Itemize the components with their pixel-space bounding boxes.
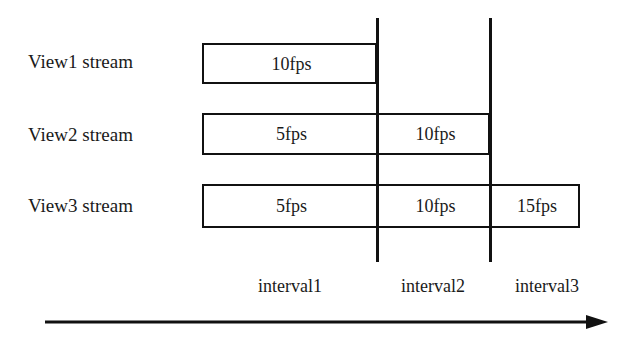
segment-view2-interval2: 10fps	[379, 115, 492, 153]
stream-bar-view2: 5fps 10fps	[202, 113, 490, 155]
row-label-view3: View3 stream	[28, 196, 133, 215]
segment-value: 10fps	[413, 125, 459, 143]
stream-bar-view3: 5fps 10fps 15fps	[202, 184, 580, 228]
row-label-view1: View1 stream	[28, 52, 133, 71]
stream-bar-view1: 10fps	[202, 43, 377, 84]
segment-view3-interval1: 5fps	[204, 186, 379, 226]
segment-value: 10fps	[413, 197, 459, 215]
segment-view3-interval2: 10fps	[379, 186, 492, 226]
interval-caption-3: interval3	[487, 277, 607, 295]
row-label-view2: View2 stream	[28, 125, 133, 144]
interval-caption-2: interval2	[373, 277, 493, 295]
segment-value: 5fps	[273, 125, 310, 143]
interval-caption-1: interval1	[230, 277, 350, 295]
segment-value: 5fps	[273, 197, 310, 215]
time-axis-arrow-icon	[45, 314, 608, 330]
segment-view3-interval3: 15fps	[492, 186, 582, 226]
segment-view2-interval1: 5fps	[204, 115, 379, 153]
segment-value: 15fps	[514, 197, 560, 215]
segment-value: 10fps	[269, 55, 315, 73]
segment-view1-interval1: 10fps	[204, 45, 379, 82]
stream-interval-diagram: View1 stream 10fps View2 stream 5fps 10f…	[0, 0, 633, 339]
